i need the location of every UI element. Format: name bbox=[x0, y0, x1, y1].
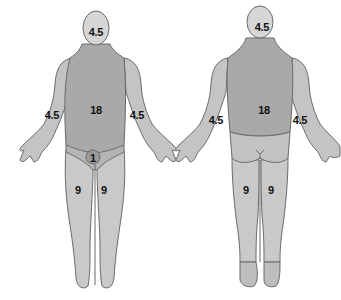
back-right-leg bbox=[232, 158, 259, 262]
front-figure bbox=[20, 11, 176, 288]
back-right-arm-label: 4.5 bbox=[209, 114, 223, 126]
front-right-leg bbox=[65, 150, 93, 288]
front-head-label: 4.5 bbox=[89, 26, 103, 38]
back-left-foot bbox=[264, 262, 280, 287]
back-right-foot bbox=[240, 262, 257, 287]
front-trunk-label: 18 bbox=[90, 104, 102, 116]
back-right-leg-label: 9 bbox=[243, 184, 249, 196]
body-diagram bbox=[0, 0, 341, 300]
back-head-label: 4.5 bbox=[255, 21, 269, 33]
back-figure bbox=[176, 6, 340, 287]
front-perineum-label: 1 bbox=[90, 152, 96, 164]
back-left-leg bbox=[261, 158, 288, 262]
back-left-arm bbox=[290, 58, 340, 162]
back-trunk bbox=[227, 38, 293, 136]
front-right-leg-label: 9 bbox=[75, 184, 81, 196]
back-right-arm bbox=[176, 58, 228, 162]
front-left-arm-label: 4.5 bbox=[130, 109, 144, 121]
back-left-arm-label: 4.5 bbox=[293, 114, 307, 126]
front-right-arm-label: 4.5 bbox=[45, 109, 59, 121]
front-left-leg bbox=[97, 150, 125, 288]
front-left-leg-label: 9 bbox=[101, 184, 107, 196]
front-trunk bbox=[65, 44, 126, 158]
back-left-leg-label: 9 bbox=[268, 184, 274, 196]
back-trunk-label: 18 bbox=[258, 104, 270, 116]
